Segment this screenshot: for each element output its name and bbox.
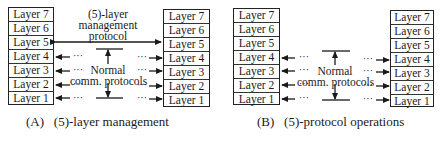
management-protocol-label: (5)-layer management protocol [70,9,146,42]
ellipsis: ··· [137,94,147,102]
ellipsis: ··· [73,52,83,60]
ellipsis: ··· [299,53,309,61]
label-line: comm. protocols [297,77,373,88]
ellipsis: ··· [299,94,309,102]
caption-b: (B) (5)-protocol operations [257,114,404,130]
normal-protocols-label-b: Normal comm. protocols [297,66,373,88]
ellipsis: ··· [73,94,83,102]
label-line: comm. protocols [70,76,146,87]
label-line: protocol [70,31,146,42]
normal-protocols-label-a: Normal comm. protocols [70,65,146,87]
ellipsis: ··· [137,53,147,61]
caption-a: (A) (5)-layer management [26,114,169,130]
ellipsis: ··· [363,95,373,103]
ellipsis: ··· [363,55,373,63]
